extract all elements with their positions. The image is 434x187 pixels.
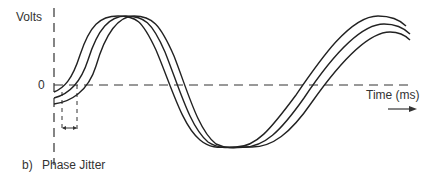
waveform-leading (54, 16, 406, 147)
x-axis-label: Time (ms) (366, 88, 420, 102)
caption-text: Phase Jitter (42, 158, 105, 172)
time-arrowhead (409, 106, 417, 112)
jitter-arrowhead-left (62, 126, 66, 130)
jitter-arrowhead-right (73, 126, 77, 130)
caption-letter: b) (22, 158, 33, 172)
y-axis-label: Volts (16, 10, 42, 24)
zero-label: 0 (38, 78, 45, 92)
